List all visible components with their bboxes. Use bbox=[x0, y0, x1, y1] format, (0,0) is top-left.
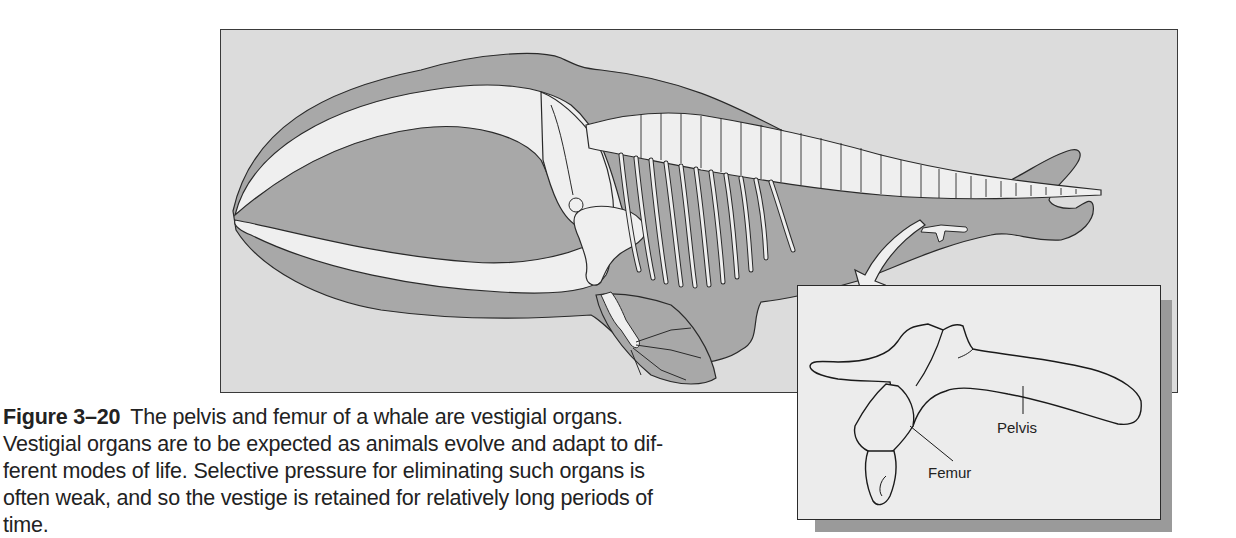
caption-line-3: ferent modes of life. Selective pressure… bbox=[3, 458, 793, 485]
caption-line-1: Figure 3–20The pelvis and femur of a wha… bbox=[3, 404, 793, 431]
caption-line-2: Vestigial organs are to be expected as a… bbox=[3, 431, 793, 458]
pelvis-femur-drawing bbox=[798, 286, 1161, 520]
figure-number: Figure 3–20 bbox=[3, 405, 120, 429]
femur-leader-line bbox=[910, 426, 953, 461]
femur-bone bbox=[855, 384, 914, 454]
pelvis-femur-inset: Pelvis Femur bbox=[797, 285, 1161, 520]
caption-line-5: time. bbox=[3, 512, 793, 538]
femur-tip bbox=[866, 451, 897, 505]
pelvis-label: Pelvis bbox=[997, 419, 1037, 436]
femur-label: Femur bbox=[928, 464, 971, 481]
caption-line-4: often weak, and so the vestige is retain… bbox=[3, 485, 793, 512]
figure-caption: Figure 3–20The pelvis and femur of a wha… bbox=[3, 404, 793, 538]
